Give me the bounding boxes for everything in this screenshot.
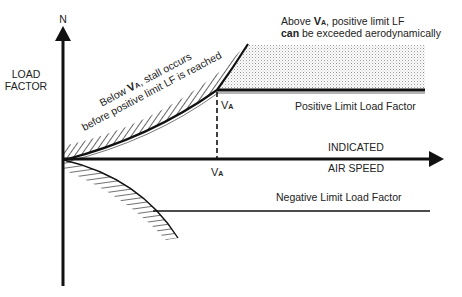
exceed-region-stipple	[217, 45, 425, 89]
negative-stall-hatch	[64, 160, 178, 240]
y-axis-letter: N	[59, 13, 67, 25]
x-axis-arrowhead	[429, 151, 444, 167]
above-va-annotation-line2: can be exceeded aerodynamically	[281, 27, 442, 39]
above-va-annotation-line1: Above VA, positive limit LF	[281, 15, 404, 27]
x-axis-label-line2: AIR SPEED	[328, 162, 384, 174]
positive-limit-label: Positive Limit Load Factor	[295, 100, 416, 112]
diagram-canvas: N LOAD FACTOR INDICATED AIR SPEED VA VA …	[0, 0, 462, 297]
y-axis-label-line1: LOAD	[12, 68, 41, 80]
vg-diagram: N LOAD FACTOR INDICATED AIR SPEED VA VA …	[0, 0, 462, 297]
va-label-axis: VA	[211, 166, 223, 178]
negative-limit-label: Negative Limit Load Factor	[276, 191, 402, 203]
x-axis-label-line1: INDICATED	[328, 141, 384, 153]
va-label-upper: VA	[221, 99, 233, 111]
y-axis-arrowhead	[55, 26, 71, 41]
y-axis-label-line2: FACTOR	[5, 80, 48, 92]
